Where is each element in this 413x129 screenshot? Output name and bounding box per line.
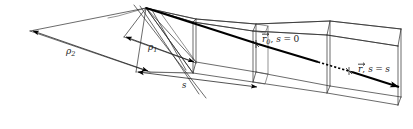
label-arclength-s: s <box>182 80 187 90</box>
label-rho1: ρ1 <box>147 42 157 54</box>
label-r-text: r,s=s <box>358 64 390 74</box>
tube-end-cap <box>398 29 401 105</box>
tube-longitudinal-edges <box>146 8 401 105</box>
cross-section-s-equals-s <box>327 21 330 93</box>
label-r0-text: r0,s=0 <box>262 34 300 46</box>
label-r0-group: r0,s=0 <box>262 33 300 47</box>
measure-rho1 <box>126 37 194 62</box>
lower-reference-plane <box>30 8 193 73</box>
cross-section-near <box>193 19 196 73</box>
cross-section-s-zero <box>253 24 268 84</box>
ray-tube-diagram: ρ2 ρ1 s r0,s=0 r,s=s <box>0 0 413 129</box>
measure-arclength-s <box>138 72 257 87</box>
measure-rho2 <box>33 31 148 71</box>
ray-tube-figure: ρ2 ρ1 s r0,s=0 r,s=s <box>0 0 413 129</box>
label-rho2: ρ2 <box>65 46 75 58</box>
label-r-group: r,s=s <box>358 63 390 74</box>
